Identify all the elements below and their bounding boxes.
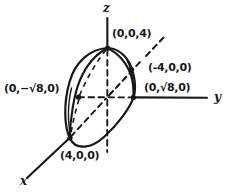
dot-z-top xyxy=(105,45,110,50)
dot-neg-y xyxy=(76,95,81,100)
dot-neg-x xyxy=(129,67,134,72)
label-negative-y-intercept: (0,−√8,0) xyxy=(4,83,59,94)
x-axis-dashed-front xyxy=(71,99,106,137)
dot-pos-y xyxy=(131,95,136,100)
label-positive-x-intercept: (4,0,0) xyxy=(60,150,99,161)
label-negative-x-intercept: (-4,0,0) xyxy=(148,62,192,73)
ellipsoid-front-arc xyxy=(70,48,108,138)
y-axis-label: y xyxy=(214,91,221,103)
dot-pos-x xyxy=(67,135,72,140)
label-positive-y-intercept: (0,√8,0) xyxy=(144,82,190,93)
label-z-intercept: (0,0,4) xyxy=(112,28,151,39)
z-axis-label: z xyxy=(103,2,110,14)
x-axis-label: x xyxy=(20,175,27,187)
